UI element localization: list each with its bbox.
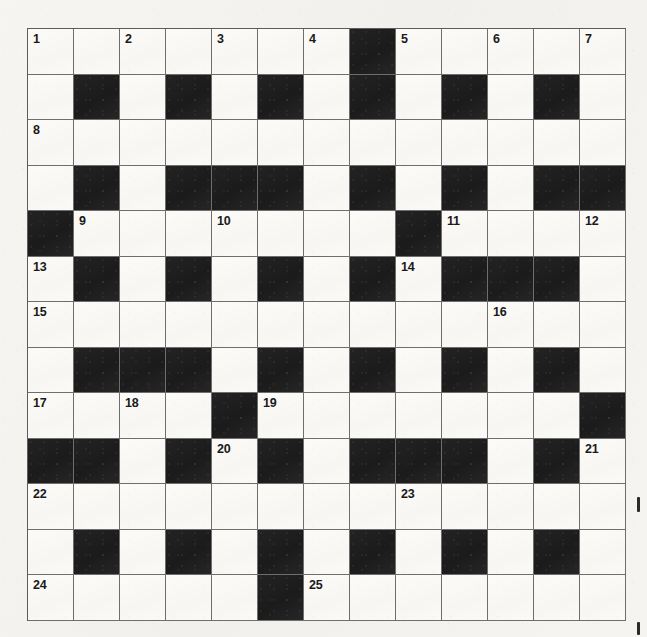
- grid-cell[interactable]: [580, 257, 626, 303]
- grid-cell[interactable]: 16: [488, 302, 534, 348]
- grid-cell[interactable]: [580, 530, 626, 576]
- grid-cell[interactable]: [120, 257, 166, 303]
- grid-cell[interactable]: [396, 530, 442, 576]
- grid-cell[interactable]: [212, 575, 258, 621]
- grid-cell[interactable]: [534, 211, 580, 257]
- grid-cell[interactable]: 13: [28, 257, 74, 303]
- grid-cell[interactable]: [304, 348, 350, 394]
- grid-cell[interactable]: [580, 75, 626, 121]
- grid-cell[interactable]: 1: [28, 29, 74, 75]
- grid-cell[interactable]: [120, 302, 166, 348]
- grid-cell[interactable]: [258, 120, 304, 166]
- grid-cell[interactable]: [304, 75, 350, 121]
- grid-cell[interactable]: [304, 439, 350, 485]
- grid-cell[interactable]: 2: [120, 29, 166, 75]
- grid-cell[interactable]: [350, 484, 396, 530]
- grid-cell[interactable]: [258, 484, 304, 530]
- grid-cell[interactable]: [304, 484, 350, 530]
- grid-cell[interactable]: [488, 348, 534, 394]
- grid-cell[interactable]: [120, 120, 166, 166]
- grid-cell[interactable]: 5: [396, 29, 442, 75]
- grid-cell[interactable]: [166, 302, 212, 348]
- grid-cell[interactable]: [28, 348, 74, 394]
- grid-cell[interactable]: 22: [28, 484, 74, 530]
- grid-cell[interactable]: [488, 439, 534, 485]
- grid-cell[interactable]: [304, 120, 350, 166]
- grid-cell[interactable]: [396, 393, 442, 439]
- grid-cell[interactable]: [442, 393, 488, 439]
- grid-cell[interactable]: [534, 575, 580, 621]
- grid-cell[interactable]: [120, 166, 166, 212]
- grid-cell[interactable]: [580, 302, 626, 348]
- grid-cell[interactable]: 19: [258, 393, 304, 439]
- grid-cell[interactable]: 12: [580, 211, 626, 257]
- grid-cell[interactable]: [120, 439, 166, 485]
- grid-cell[interactable]: [534, 120, 580, 166]
- grid-cell[interactable]: [212, 348, 258, 394]
- grid-cell[interactable]: [488, 211, 534, 257]
- grid-cell[interactable]: [350, 302, 396, 348]
- grid-cell[interactable]: [396, 166, 442, 212]
- grid-cell[interactable]: [396, 575, 442, 621]
- grid-cell[interactable]: [74, 120, 120, 166]
- grid-cell[interactable]: [396, 348, 442, 394]
- grid-cell[interactable]: 25: [304, 575, 350, 621]
- grid-cell[interactable]: [488, 575, 534, 621]
- grid-cell[interactable]: 11: [442, 211, 488, 257]
- grid-cell[interactable]: [166, 484, 212, 530]
- grid-cell[interactable]: 6: [488, 29, 534, 75]
- grid-cell[interactable]: [442, 575, 488, 621]
- grid-cell[interactable]: [580, 348, 626, 394]
- grid-cell[interactable]: [396, 302, 442, 348]
- grid-cell[interactable]: [488, 484, 534, 530]
- grid-cell[interactable]: [304, 211, 350, 257]
- grid-cell[interactable]: [120, 75, 166, 121]
- grid-cell[interactable]: 24: [28, 575, 74, 621]
- crossword-grid[interactable]: 1234567891011121314151617181920212223242…: [27, 28, 626, 621]
- grid-cell[interactable]: [28, 75, 74, 121]
- grid-cell[interactable]: [580, 120, 626, 166]
- grid-cell[interactable]: [442, 484, 488, 530]
- grid-cell[interactable]: [580, 484, 626, 530]
- grid-cell[interactable]: [396, 120, 442, 166]
- grid-cell[interactable]: [166, 575, 212, 621]
- grid-cell[interactable]: [488, 530, 534, 576]
- grid-cell[interactable]: [396, 75, 442, 121]
- grid-cell[interactable]: [304, 166, 350, 212]
- grid-cell[interactable]: [350, 120, 396, 166]
- grid-cell[interactable]: [212, 257, 258, 303]
- grid-cell[interactable]: [74, 484, 120, 530]
- grid-cell[interactable]: [350, 575, 396, 621]
- grid-cell[interactable]: 15: [28, 302, 74, 348]
- grid-cell[interactable]: [442, 302, 488, 348]
- grid-cell[interactable]: [534, 484, 580, 530]
- grid-cell[interactable]: [304, 393, 350, 439]
- grid-cell[interactable]: [166, 29, 212, 75]
- grid-cell[interactable]: 3: [212, 29, 258, 75]
- grid-cell[interactable]: [28, 166, 74, 212]
- grid-cell[interactable]: [166, 211, 212, 257]
- grid-cell[interactable]: [258, 29, 304, 75]
- grid-cell[interactable]: [120, 575, 166, 621]
- grid-cell[interactable]: [350, 211, 396, 257]
- grid-cell[interactable]: 4: [304, 29, 350, 75]
- grid-cell[interactable]: [166, 393, 212, 439]
- grid-cell[interactable]: [304, 530, 350, 576]
- grid-cell[interactable]: [580, 575, 626, 621]
- grid-cell[interactable]: 8: [28, 120, 74, 166]
- grid-cell[interactable]: [212, 484, 258, 530]
- grid-cell[interactable]: [212, 530, 258, 576]
- grid-cell[interactable]: 7: [580, 29, 626, 75]
- grid-cell[interactable]: [534, 302, 580, 348]
- grid-cell[interactable]: [74, 29, 120, 75]
- grid-cell[interactable]: [212, 120, 258, 166]
- grid-cell[interactable]: [488, 166, 534, 212]
- grid-cell[interactable]: [120, 211, 166, 257]
- grid-cell[interactable]: [534, 29, 580, 75]
- grid-cell[interactable]: [304, 302, 350, 348]
- grid-cell[interactable]: 10: [212, 211, 258, 257]
- grid-cell[interactable]: 21: [580, 439, 626, 485]
- grid-cell[interactable]: [442, 29, 488, 75]
- grid-cell[interactable]: 18: [120, 393, 166, 439]
- grid-cell[interactable]: [74, 575, 120, 621]
